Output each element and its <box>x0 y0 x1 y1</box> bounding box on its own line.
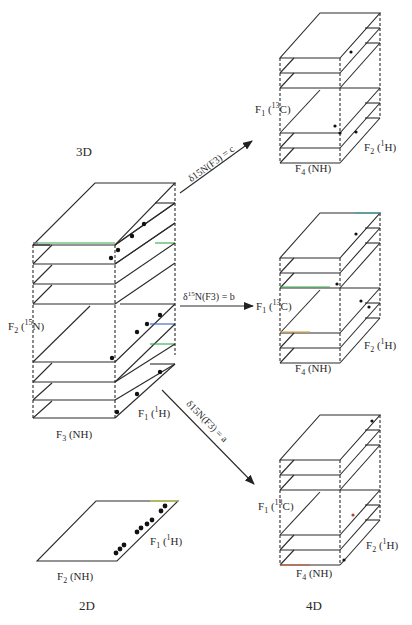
three-d-axis-f3: F3 (NH) <box>56 428 92 443</box>
three-d-axis-f2: F2 (15N) <box>8 318 44 335</box>
title-4d: 4D <box>306 598 322 614</box>
title-2d-text: 2D <box>79 598 95 613</box>
four-d-c-axis-f1: F1 (13C) <box>255 101 291 118</box>
nmr-dimensionality-diagram <box>0 0 412 625</box>
four-d-b-axis-f4: F4 (NH) <box>295 362 331 377</box>
title-4d-text: 4D <box>306 598 322 613</box>
two-d-axis-f1: F1 (1H) <box>150 533 182 550</box>
four-d-c-axis-f4: F4 (NH) <box>295 162 331 177</box>
four-d-c-axis-f2: F2 (1H) <box>364 139 396 156</box>
arrow-value-b: b <box>230 291 235 302</box>
two-d-plane <box>37 501 178 561</box>
four-d-a-axis-f1: F1 (13C) <box>258 498 294 515</box>
four-d-b-axis-f1: F1 (13C) <box>256 298 292 315</box>
three-d-axis-f1: F1 (1H) <box>138 405 170 422</box>
four-d-a-axis-f2: F2 (1H) <box>366 537 398 554</box>
three-d-cube <box>33 183 175 418</box>
projection-arrows <box>162 141 254 484</box>
four-d-cube-a <box>280 415 380 565</box>
three-d-peaks <box>109 222 162 414</box>
arrow-label-b: δ15N(F3) = b <box>183 290 235 302</box>
two-d-axis-f2: F2 (NH) <box>57 570 93 585</box>
four-d-a-axis-f4: F4 (NH) <box>296 567 332 582</box>
title-2d: 2D <box>79 598 95 614</box>
title-3d: 3D <box>76 144 92 160</box>
four-d-b-axis-f2: F2 (1H) <box>364 337 396 354</box>
title-3d-text: 3D <box>76 144 92 159</box>
